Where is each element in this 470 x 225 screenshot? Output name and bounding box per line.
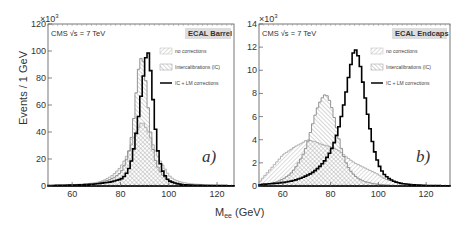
x-tick-label: 60 <box>67 189 77 199</box>
y-tick-label: 2 <box>252 158 257 168</box>
panel-title: ECAL Barrel <box>188 29 232 38</box>
y-tick-label: 4 <box>252 135 257 145</box>
y-tick-label: 12 <box>247 42 257 52</box>
y-tick-label: 20 <box>36 154 46 164</box>
legend-no-corrections: no corrections <box>175 48 207 54</box>
y-tick-label: 60 <box>36 100 46 110</box>
x-tick-label: 80 <box>326 189 336 199</box>
x-axis-label: Mee (GeV) <box>215 206 264 219</box>
x-tick-label: 120 <box>210 189 225 199</box>
y-tick-label: 14 <box>247 19 257 29</box>
y-tick-label: 40 <box>36 127 46 137</box>
x-tick-label: 120 <box>419 189 434 199</box>
cms-label: CMS √s = 7 TeV <box>262 29 316 38</box>
y-tick-label: 80 <box>36 73 46 83</box>
panel-label: b) <box>416 147 431 166</box>
x-tick-label: 60 <box>278 189 288 199</box>
legend-ic-lm: IC + LM corrections <box>175 80 219 86</box>
y-tick-label: 100 <box>31 46 46 56</box>
legend-intercalibrations: Intercalibrations (IC) <box>386 64 431 70</box>
panel-barrel: ×103 CMS √s = 7 TeV ECAL Barrel no corre… <box>17 13 234 199</box>
legend-intercalibrations: Intercalibrations (IC) <box>175 64 220 70</box>
panel-title: ECAL Endcaps <box>395 29 449 38</box>
panel-label: a) <box>202 147 217 166</box>
x-tick-label: 80 <box>115 189 125 199</box>
x-tick-label: 100 <box>371 189 386 199</box>
y-axis-label: Events / 1 GeV <box>17 50 29 125</box>
legend-no-corrections: no corrections <box>386 48 418 54</box>
x-tick-label: 100 <box>161 189 176 199</box>
legend-ic-lm: IC + LM corrections <box>386 80 430 86</box>
y-tick-label: 120 <box>31 19 46 29</box>
y-tick-label: 0 <box>252 181 257 191</box>
y-tick-label: 8 <box>252 88 257 98</box>
y-tick-label: 6 <box>252 112 257 122</box>
cms-label: CMS √s = 7 TeV <box>51 29 105 38</box>
y-tick-label: 10 <box>247 65 257 75</box>
y-tick-label: 0 <box>41 181 46 191</box>
panel-endcaps: ×103 CMS √s = 7 TeV ECAL Endcaps no corr… <box>247 13 450 199</box>
y-multiplier: ×103 <box>259 13 278 24</box>
figure: ×103 CMS √s = 7 TeV ECAL Barrel no corre… <box>0 0 470 225</box>
